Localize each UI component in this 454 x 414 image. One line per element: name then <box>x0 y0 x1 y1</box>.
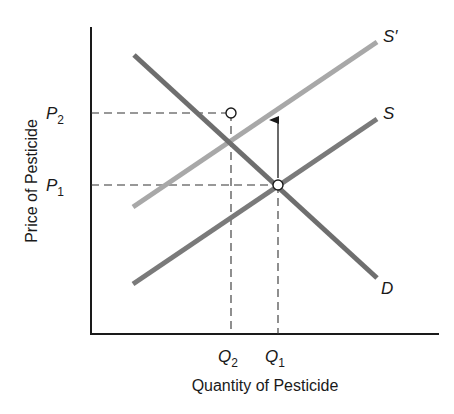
p2-subscript: 2 <box>57 113 64 127</box>
q2-tick-label: Q2 <box>218 347 238 370</box>
p2-letter: P <box>46 104 58 123</box>
x-axis-title: Quantity of Pesticide <box>192 377 339 394</box>
supply-curve <box>133 119 377 284</box>
q1-subscript: 1 <box>278 356 285 370</box>
guide-lines <box>91 113 278 334</box>
demand-label: D <box>381 279 393 298</box>
supply-demand-diagram: S′ S D P2 P1 Q2 Q1 Quantity of Pesticide… <box>0 0 454 414</box>
supply-shifted-curve <box>133 42 377 207</box>
supply-shifted-label: S′ <box>383 27 398 46</box>
q2-subscript: 2 <box>231 356 238 370</box>
demand-curve <box>134 55 377 278</box>
equilibrium-point-new <box>226 108 236 118</box>
y-axis-title: Price of Pesticide <box>23 119 40 243</box>
q2-letter: Q <box>218 347 231 366</box>
p1-subscript: 1 <box>57 185 64 199</box>
q1-letter: Q <box>265 347 278 366</box>
supply-label: S <box>383 104 395 123</box>
p1-tick-label: P1 <box>46 176 64 199</box>
p1-letter: P <box>46 176 58 195</box>
q1-tick-label: Q1 <box>265 347 285 370</box>
equilibrium-point-initial <box>273 180 283 190</box>
p2-tick-label: P2 <box>46 104 64 127</box>
